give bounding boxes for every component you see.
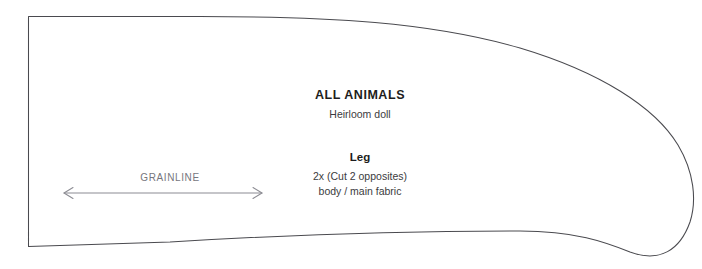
leg-pattern-outline xyxy=(29,17,694,256)
piece-fabric: body / main fabric xyxy=(248,184,472,199)
grainline-label: GRAINLINE xyxy=(90,171,250,184)
pattern-sheet: ALL ANIMALS Heirloom doll Leg 2x (Cut 2 … xyxy=(0,0,702,269)
title-block: ALL ANIMALS Heirloom doll xyxy=(248,88,472,122)
pattern-outline-svg xyxy=(0,0,702,269)
piece-info-block: Leg 2x (Cut 2 opposites) body / main fab… xyxy=(248,150,472,198)
brand-title: ALL ANIMALS xyxy=(248,88,472,103)
piece-cut-count: 2x (Cut 2 opposites) xyxy=(248,169,472,184)
collection-subtitle: Heirloom doll xyxy=(248,107,472,122)
piece-name: Leg xyxy=(248,150,472,164)
